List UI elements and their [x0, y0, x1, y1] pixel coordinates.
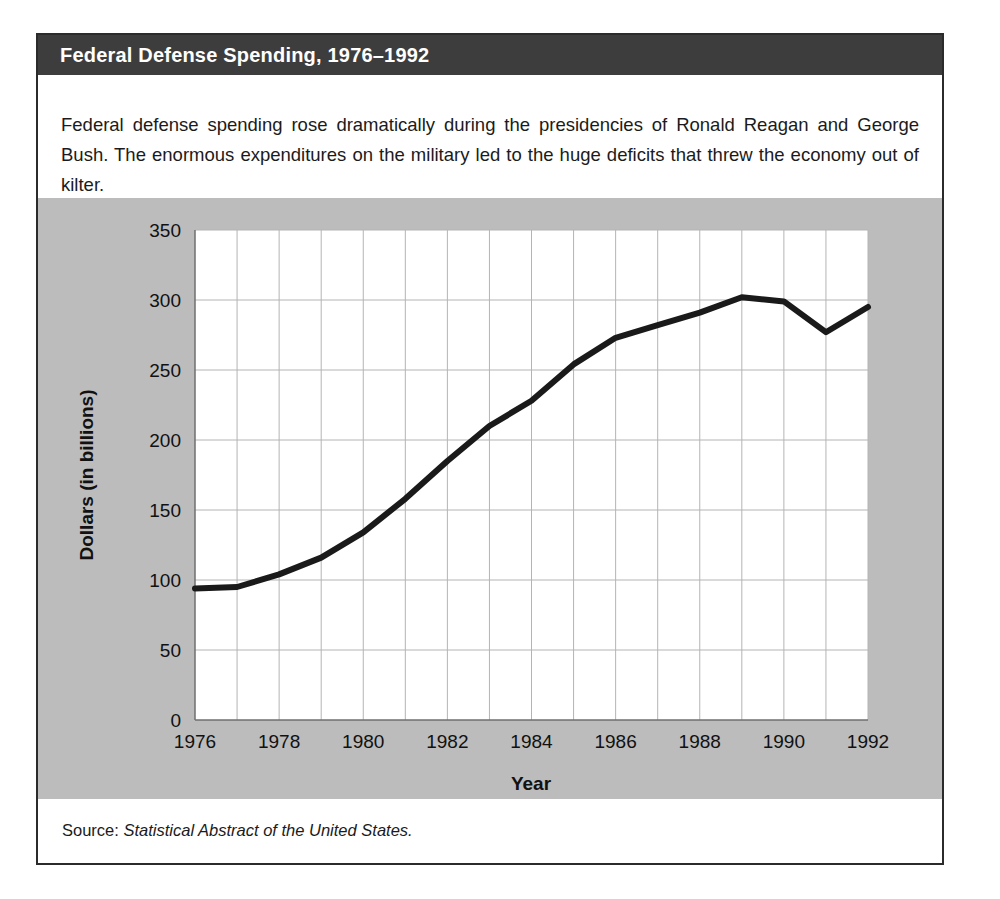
y-tick-label: 250 — [149, 360, 181, 381]
x-tick-label: 1990 — [763, 731, 805, 752]
y-tick-label: 350 — [149, 220, 181, 241]
x-axis-tick-labels: 197619781980198219841986198819901992 — [174, 731, 889, 752]
y-axis-title: Dollars (in billions) — [76, 389, 97, 560]
source-area: Source: Statistical Abstract of the Unit… — [38, 799, 942, 863]
y-tick-label: 50 — [160, 640, 181, 661]
y-tick-label: 100 — [149, 570, 181, 591]
x-tick-label: 1976 — [174, 731, 216, 752]
figure-title-bar: Federal Defense Spending, 1976–1992 — [38, 35, 942, 75]
x-tick-label: 1988 — [679, 731, 721, 752]
source-label: Source: — [62, 821, 119, 839]
line-chart: 050100150200250300350 197619781980198219… — [38, 198, 946, 799]
y-tick-label: 200 — [149, 430, 181, 451]
figure-title: Federal Defense Spending, 1976–1992 — [60, 44, 429, 67]
y-tick-label: 0 — [170, 710, 181, 731]
x-tick-label: 1992 — [847, 731, 889, 752]
x-tick-label: 1986 — [594, 731, 636, 752]
figure-container: Federal Defense Spending, 1976–1992 Fede… — [36, 33, 944, 865]
x-axis-title: Year — [511, 773, 552, 794]
y-tick-label: 300 — [149, 290, 181, 311]
figure-caption-text: Federal defense spending rose dramatical… — [61, 110, 919, 200]
x-tick-label: 1978 — [258, 731, 300, 752]
source-line: Source: Statistical Abstract of the Unit… — [62, 821, 413, 840]
y-axis-tick-labels: 050100150200250300350 — [149, 220, 181, 731]
figure-caption-area: Federal defense spending rose dramatical… — [38, 75, 942, 198]
x-tick-label: 1980 — [342, 731, 384, 752]
y-tick-label: 150 — [149, 500, 181, 521]
source-title: Statistical Abstract of the United State… — [123, 821, 412, 839]
chart-panel: 050100150200250300350 197619781980198219… — [38, 198, 942, 799]
x-tick-label: 1982 — [426, 731, 468, 752]
x-tick-label: 1984 — [510, 731, 553, 752]
